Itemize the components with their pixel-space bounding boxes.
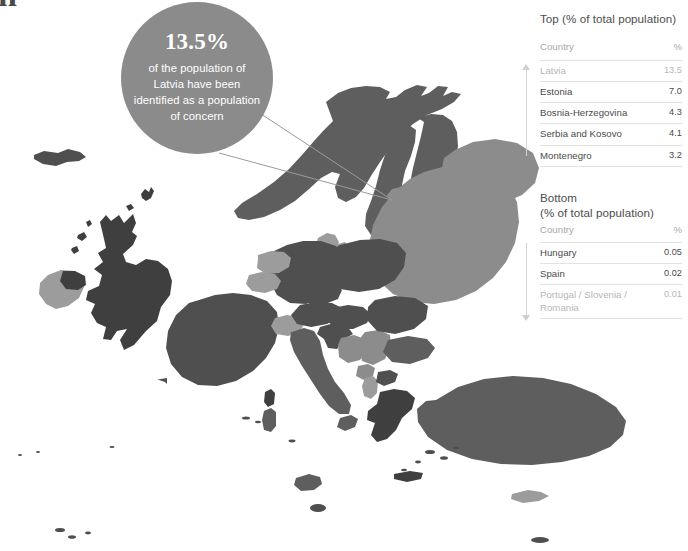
column-header-percent: %: [673, 41, 682, 53]
country-iceland: [34, 149, 86, 166]
row-country: Montenegro: [540, 150, 598, 162]
statistics-panel: Top (% of total population) Country % La…: [513, 0, 688, 551]
region-iberia: [70, 375, 181, 465]
row-value: 0.02: [664, 268, 682, 280]
isles-hebrides: [71, 220, 92, 254]
table-row[interactable]: Montenegro 3.2: [540, 146, 682, 167]
bottom-rank-axis: [521, 237, 533, 319]
table-row[interactable]: Latvia 13.5: [540, 61, 682, 82]
row-value: 0.01: [664, 289, 682, 301]
callout-value: 13.5%: [165, 30, 229, 54]
island-corsica: [264, 389, 275, 407]
column-header-percent: %: [673, 224, 682, 236]
table-header-row: Country %: [540, 222, 682, 243]
row-value: 3.2: [669, 150, 682, 162]
country-bulgaria: [383, 336, 435, 364]
row-country: Spain: [540, 268, 571, 280]
row-value: 4.1: [669, 128, 682, 140]
top-table-rows: Country % Latvia 13.5 Estonia 7.0 Bosnia…: [540, 39, 688, 167]
island-crete: [394, 471, 423, 482]
table-row[interactable]: Hungary 0.05: [540, 243, 682, 264]
country-greece: [367, 389, 415, 442]
top-rank-axis: [521, 64, 533, 158]
country-romania: [367, 296, 428, 334]
column-header-country: Country: [540, 224, 580, 236]
top-table-title: Top (% of total population): [540, 11, 688, 26]
axis-line: [526, 243, 527, 317]
callout-description: of the population of Latvia have been id…: [133, 60, 261, 124]
top-countries-table: Top (% of total population) Country % La…: [513, 11, 688, 167]
row-country: Bosnia-Herzegovina: [540, 107, 633, 119]
row-country: Hungary: [540, 247, 583, 259]
arrow-down-icon: [522, 315, 530, 321]
axis-line: [526, 70, 527, 156]
country-north-macedonia: [376, 370, 398, 386]
row-value: 13.5: [664, 65, 682, 77]
bottom-table-rows: Country % Hungary 0.05 Spain 0.02 Portug…: [540, 222, 688, 319]
column-header-country: Country: [540, 41, 580, 53]
country-czechia: [301, 283, 342, 304]
page-title-fragment: n: [0, 0, 17, 12]
country-france: [166, 293, 279, 386]
row-country: Serbia and Kosovo: [540, 128, 628, 140]
table-row[interactable]: Bosnia-Herzegovina 4.3: [540, 103, 682, 124]
row-country: Estonia: [540, 86, 578, 98]
bottom-table-title: Bottom (% of total population): [540, 190, 688, 221]
row-value: 7.0: [669, 86, 682, 98]
country-united-kingdom: [86, 214, 172, 350]
table-row[interactable]: Estonia 7.0: [540, 82, 682, 103]
row-value: 4.3: [669, 107, 682, 119]
callout-bubble: 13.5% of the population of Latvia have b…: [121, 2, 273, 154]
region-italy-heel: [337, 415, 358, 431]
bottom-table-title-line1: Bottom: [540, 190, 682, 205]
table-header-row: Country %: [540, 39, 682, 60]
island-sicily: [294, 474, 322, 491]
isles-shetland: [126, 187, 154, 211]
table-row[interactable]: Portugal / Slovenia / Romania 0.01: [540, 285, 682, 319]
row-country: Latvia: [540, 65, 572, 77]
row-country: Portugal / Slovenia / Romania: [540, 289, 664, 314]
island-sardinia: [262, 408, 276, 432]
row-value: 0.05: [664, 247, 682, 259]
table-row[interactable]: Spain 0.02: [540, 264, 682, 285]
bottom-countries-table: Bottom (% of total population) Country %…: [513, 190, 688, 319]
bottom-table-title-line2: (% of total population): [540, 205, 682, 220]
table-row[interactable]: Serbia and Kosovo 4.1: [540, 124, 682, 145]
